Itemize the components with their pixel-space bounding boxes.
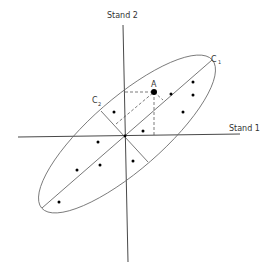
pca-diagram: A Stand 2 Stand 1 C 1 C 2 xyxy=(0,0,277,277)
c1-label: C xyxy=(211,55,217,64)
projection-a-parallel-c1 xyxy=(116,92,154,124)
data-point xyxy=(192,81,195,84)
data-point xyxy=(58,201,61,204)
data-point xyxy=(142,130,145,133)
data-point xyxy=(192,94,195,97)
stand-2-label: Stand 2 xyxy=(107,11,138,20)
data-point xyxy=(97,141,100,144)
point-a-label: A xyxy=(151,80,157,89)
c2-subscript: 2 xyxy=(98,101,101,107)
data-point xyxy=(76,169,79,172)
stand-2-axis xyxy=(123,25,128,262)
data-point xyxy=(132,160,135,163)
point-a xyxy=(151,89,157,95)
data-point xyxy=(182,111,185,114)
data-point xyxy=(99,164,102,167)
origin-dot xyxy=(124,135,127,138)
data-point xyxy=(170,93,173,96)
stand-1-label: Stand 1 xyxy=(229,124,260,133)
data-point xyxy=(113,111,116,114)
c1-axis xyxy=(42,60,212,208)
stand-1-axis xyxy=(18,134,240,137)
c1-subscript: 1 xyxy=(218,59,221,65)
